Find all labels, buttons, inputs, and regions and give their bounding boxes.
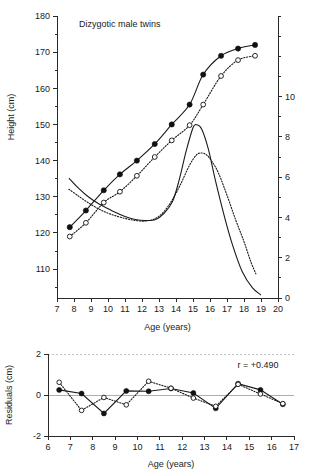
- x-axis-tick-label: 8: [71, 304, 76, 314]
- x-axis-tick-label: 19: [256, 304, 266, 314]
- x-axis-tick-label: 11: [120, 304, 129, 314]
- data-series-line: [70, 56, 255, 237]
- data-point-marker: [84, 220, 89, 225]
- residuals-x-axis-title: Age (years): [148, 459, 195, 469]
- residuals-point-marker: [124, 403, 129, 408]
- residuals-point-marker: [258, 392, 263, 397]
- residuals-x-tick-label: 13: [200, 442, 210, 452]
- residuals-point-marker: [213, 404, 218, 409]
- residuals-y-axis-title: Residuals (cm): [4, 365, 14, 425]
- y2-axis-tick-label: 4: [285, 213, 290, 223]
- residuals-point-marker: [79, 391, 84, 396]
- x-axis-tick-label: 9: [88, 304, 93, 314]
- data-point-marker: [236, 58, 241, 63]
- x-axis-tick-label: 20: [273, 304, 283, 314]
- data-point-marker: [201, 102, 206, 107]
- data-point-marker: [67, 225, 72, 230]
- x-axis-tick-label: 14: [171, 304, 181, 314]
- data-point-marker: [252, 42, 257, 47]
- data-point-marker: [83, 208, 88, 213]
- y-axis-tick-label: 140: [35, 156, 50, 166]
- residuals-point-marker: [146, 379, 151, 384]
- residuals-x-tick-label: 8: [90, 442, 95, 452]
- residuals-point-marker: [191, 390, 196, 395]
- y-axis-title: Height (cm): [6, 94, 16, 141]
- residuals-x-tick-label: 15: [244, 442, 254, 452]
- residuals-y-tick-label: -2: [33, 431, 41, 441]
- data-point-marker: [187, 123, 192, 128]
- correlation-annotation: r = +0.490: [237, 360, 278, 370]
- data-point-marker: [201, 72, 206, 77]
- residuals-y-tick-label: 2: [36, 349, 41, 359]
- data-point-marker: [235, 46, 240, 51]
- data-point-marker: [253, 53, 258, 58]
- data-point-marker: [169, 138, 174, 143]
- residuals-x-tick-label: 9: [113, 442, 118, 452]
- data-point-marker: [152, 155, 157, 160]
- y2-axis-tick-label: 6: [285, 172, 290, 182]
- residuals-x-tick-label: 14: [222, 442, 232, 452]
- y2-axis-tick-label: 8: [285, 132, 290, 142]
- residuals-point-marker: [169, 386, 174, 391]
- residuals-y-tick-label: 0: [36, 390, 41, 400]
- data-point-marker: [117, 172, 122, 177]
- figure-container: 1101201301401501601701800246810789101112…: [0, 0, 324, 474]
- y-axis-tick-label: 120: [35, 228, 50, 238]
- data-point-marker: [118, 189, 123, 194]
- residuals-point-marker: [191, 396, 196, 401]
- data-point-marker: [135, 173, 140, 178]
- data-point-marker: [169, 122, 174, 127]
- residuals-x-tick-label: 6: [45, 442, 50, 452]
- y-axis-tick-label: 130: [35, 192, 50, 202]
- x-axis-tick-label: 17: [222, 304, 232, 314]
- growth-curve-panel: 1101201301401501601701800246810789101112…: [0, 0, 324, 340]
- residuals-point-marker: [57, 380, 62, 385]
- y2-axis-tick-label: 2: [285, 253, 290, 263]
- residuals-x-tick-label: 11: [155, 442, 164, 452]
- residuals-x-tick-label: 12: [177, 442, 187, 452]
- data-point-marker: [101, 200, 106, 205]
- residuals-svg: -20267891011121314151617Age (years)Resid…: [0, 340, 324, 474]
- residuals-point-marker: [281, 401, 286, 406]
- residuals-panel: -20267891011121314151617Age (years)Resid…: [0, 340, 324, 474]
- y2-axis-tick-label: 10: [285, 92, 295, 102]
- x-axis-tick-label: 15: [188, 304, 198, 314]
- data-series-line: [69, 153, 256, 274]
- y2-axis-tick-label: 0: [285, 293, 290, 303]
- data-point-marker: [218, 53, 223, 58]
- plot-title: Dizygotic male twins: [79, 19, 161, 29]
- residuals-point-marker: [57, 387, 62, 392]
- residuals-point-marker: [236, 382, 241, 387]
- y-axis-tick-label: 180: [35, 11, 50, 21]
- residuals-x-tick-label: 16: [267, 442, 277, 452]
- y-axis-tick-label: 160: [35, 84, 50, 94]
- x-axis-tick-label: 12: [137, 304, 147, 314]
- growth-curve-svg: 1101201301401501601701800246810789101112…: [0, 0, 324, 340]
- data-point-marker: [101, 188, 106, 193]
- data-point-marker: [187, 102, 192, 107]
- residuals-point-marker: [102, 395, 107, 400]
- data-point-marker: [134, 158, 139, 163]
- data-point-marker: [152, 141, 157, 146]
- x-axis-title: Age (years): [144, 322, 191, 332]
- x-axis-tick-label: 10: [103, 304, 113, 314]
- x-axis-tick-label: 13: [154, 304, 164, 314]
- x-axis-tick-label: 7: [54, 304, 59, 314]
- data-point-marker: [67, 234, 72, 239]
- y-axis-tick-label: 150: [35, 120, 50, 130]
- x-axis-tick-label: 16: [205, 304, 215, 314]
- residuals-x-tick-label: 10: [132, 442, 142, 452]
- residuals-point-marker: [101, 411, 106, 416]
- residuals-point-marker: [146, 389, 151, 394]
- x-axis-tick-label: 18: [239, 304, 249, 314]
- data-series-line: [70, 45, 255, 227]
- data-point-marker: [219, 74, 224, 79]
- residuals-point-marker: [79, 408, 84, 413]
- residuals-x-tick-label: 7: [68, 442, 73, 452]
- y-axis-tick-label: 170: [35, 47, 50, 57]
- y-axis-tick-label: 110: [36, 264, 50, 274]
- residuals-x-tick-label: 17: [289, 442, 299, 452]
- residuals-point-marker: [124, 388, 129, 393]
